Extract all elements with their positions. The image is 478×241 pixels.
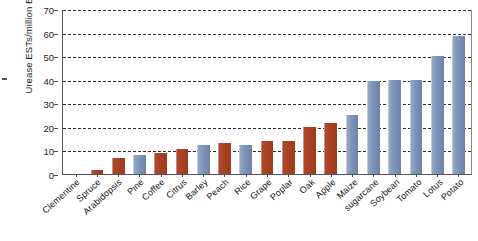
y-tick-mark: [54, 81, 58, 82]
bar: [367, 81, 380, 174]
y-tick-mark: [54, 104, 58, 105]
bar: [452, 36, 465, 174]
bar: [282, 141, 295, 174]
bar-series: [63, 10, 471, 174]
x-label-slot: Pine: [128, 176, 149, 241]
bar-slot: [278, 10, 299, 174]
bar-slot: [214, 10, 235, 174]
x-label-slot: Peach: [214, 176, 235, 241]
bar-slot: [193, 10, 214, 174]
y-tick-label: 70: [43, 5, 54, 16]
bar-slot: [65, 10, 86, 174]
bar-slot: [86, 10, 107, 174]
bar-slot: [256, 10, 277, 174]
y-tick-mark: [54, 175, 58, 176]
bar: [239, 145, 252, 174]
plot-area: [62, 10, 472, 175]
y-tick-mark: [54, 34, 58, 35]
urease-est-bar-chart: Urease ESTs/million ESTs 010203040506070…: [0, 0, 478, 241]
edge-tick-mark: [2, 78, 7, 80]
bar-slot: [448, 10, 469, 174]
y-tick-label: 30: [43, 99, 54, 110]
bar-slot: [320, 10, 341, 174]
y-tick-label: 20: [43, 122, 54, 133]
bar-slot: [299, 10, 320, 174]
bar: [324, 123, 337, 174]
bar-slot: [171, 10, 192, 174]
y-tick-label: 40: [43, 75, 54, 86]
x-label-slot: Arabidopsis: [107, 176, 128, 241]
y-axis-title: Urease ESTs/million ESTs: [23, 0, 34, 114]
bar: [388, 80, 401, 174]
x-axis-category-labels: ClementineSpruceArabidopsisPineCoffeeCit…: [62, 176, 472, 241]
x-label-slot: Oak: [299, 176, 320, 241]
x-label-slot: Tomato: [406, 176, 427, 241]
bar-slot: [235, 10, 256, 174]
bar: [197, 145, 210, 174]
bar: [218, 143, 231, 174]
x-label-slot: Lotus: [427, 176, 448, 241]
y-tick-label: 60: [43, 28, 54, 39]
bar: [410, 80, 423, 174]
bar: [346, 115, 359, 174]
x-label-slot: Rice: [235, 176, 256, 241]
bar: [431, 56, 444, 174]
x-label-slot: Apple: [321, 176, 342, 241]
bar-slot: [108, 10, 129, 174]
x-label-slot: Barley: [192, 176, 213, 241]
x-label-slot: Poplar: [278, 176, 299, 241]
y-tick-mark: [54, 128, 58, 129]
bar: [112, 158, 125, 175]
bar: [303, 127, 316, 174]
x-label-slot: Soybean: [385, 176, 406, 241]
y-tick-mark: [54, 10, 58, 11]
bar: [133, 155, 146, 174]
y-tick-mark: [54, 57, 58, 58]
x-label-slot: Citrus: [171, 176, 192, 241]
bar: [261, 141, 274, 174]
x-label-slot: Potato: [449, 176, 470, 241]
bar-slot: [363, 10, 384, 174]
bar-slot: [427, 10, 448, 174]
y-tick-label: 10: [43, 146, 54, 157]
x-label-slot: Coffee: [150, 176, 171, 241]
bar-slot: [129, 10, 150, 174]
bar: [154, 153, 167, 174]
bar-slot: [384, 10, 405, 174]
y-tick-mark: [54, 151, 58, 152]
x-label-slot: Grape: [256, 176, 277, 241]
y-tick-label: 50: [43, 52, 54, 63]
bar: [176, 149, 189, 174]
bar-slot: [405, 10, 426, 174]
bar-slot: [341, 10, 362, 174]
bar-slot: [150, 10, 171, 174]
